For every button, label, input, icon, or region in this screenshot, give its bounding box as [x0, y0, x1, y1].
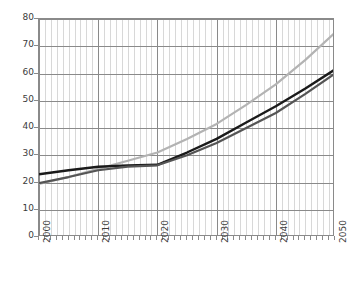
x-tick-mark — [334, 236, 335, 240]
x-tick-mark — [251, 236, 252, 240]
x-tick-mark — [74, 236, 75, 240]
x-tick-mark — [115, 236, 116, 240]
x-tick-label: 2040 — [279, 220, 289, 243]
x-tick-mark — [62, 236, 63, 240]
x-tick-mark — [174, 236, 175, 240]
x-tick-mark — [139, 236, 140, 240]
x-tick-mark — [210, 236, 211, 240]
x-tick-mark — [68, 236, 69, 240]
x-tick-mark — [127, 236, 128, 240]
y-tick-label: 0 — [4, 231, 34, 240]
x-tick-mark — [198, 236, 199, 240]
x-tick-mark — [38, 236, 39, 240]
x-tick-label: 2030 — [220, 220, 230, 243]
x-tick-mark — [180, 236, 181, 240]
x-tick-mark — [56, 236, 57, 240]
x-tick-mark — [156, 236, 157, 240]
x-tick-label: 2000 — [42, 220, 52, 243]
x-tick-mark — [275, 236, 276, 240]
x-tick-mark — [322, 236, 323, 240]
x-tick-mark — [257, 236, 258, 240]
y-tick-label: 80 — [4, 13, 34, 22]
x-tick-label: 2020 — [160, 220, 170, 243]
y-tick-label: 50 — [4, 95, 34, 104]
x-tick-mark — [186, 236, 187, 240]
y-tick-label: 10 — [4, 204, 34, 213]
series-layer — [39, 19, 334, 236]
series-light-gray — [39, 33, 334, 184]
x-tick-mark — [85, 236, 86, 240]
x-tick-mark — [269, 236, 270, 240]
x-tick-mark — [192, 236, 193, 240]
x-tick-mark — [216, 236, 217, 240]
series-dark-gray — [39, 74, 334, 184]
x-tick-mark — [304, 236, 305, 240]
y-tick-label: 40 — [4, 122, 34, 131]
x-tick-mark — [239, 236, 240, 240]
x-tick-mark — [204, 236, 205, 240]
x-tick-mark — [79, 236, 80, 240]
x-tick-label: 2050 — [338, 220, 348, 243]
x-tick-mark — [121, 236, 122, 240]
y-tick-label: 70 — [4, 40, 34, 49]
x-tick-mark — [298, 236, 299, 240]
x-tick-mark — [245, 236, 246, 240]
x-tick-mark — [233, 236, 234, 240]
x-tick-mark — [263, 236, 264, 240]
x-tick-mark — [310, 236, 311, 240]
x-tick-label: 2010 — [101, 220, 111, 243]
line-chart: 01020304050607080 2000201020202030204020… — [0, 0, 351, 295]
x-tick-mark — [91, 236, 92, 240]
series-black — [39, 69, 334, 174]
y-tick-label: 30 — [4, 149, 34, 158]
x-tick-mark — [328, 236, 329, 240]
x-tick-mark — [316, 236, 317, 240]
y-tick-label: 60 — [4, 68, 34, 77]
plot-area — [38, 18, 334, 236]
x-tick-mark — [150, 236, 151, 240]
x-tick-mark — [145, 236, 146, 240]
x-tick-mark — [133, 236, 134, 240]
y-axis: 01020304050607080 — [0, 0, 34, 295]
x-tick-mark — [97, 236, 98, 240]
x-tick-mark — [293, 236, 294, 240]
y-tick-label: 20 — [4, 177, 34, 186]
